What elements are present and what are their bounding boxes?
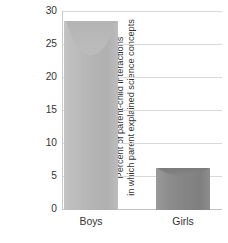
y-tick-label-15: 15 [46, 105, 57, 115]
x-axis-label-girls: Girls [172, 216, 193, 227]
y-axis-title: Percent of parent-child interactions in … [0, 0, 30, 215]
y-tick-label-5: 5 [51, 171, 57, 181]
y-tick-label-30: 30 [46, 6, 57, 16]
y-tick-label-0: 0 [51, 204, 57, 214]
y-tick-label-25: 25 [46, 39, 57, 49]
y-tick-label-10: 10 [46, 138, 57, 148]
gridline-30 [62, 11, 222, 12]
plot-area [62, 0, 222, 212]
x-axis-category-labels: Boys Girls [62, 216, 222, 236]
y-axis-tick-labels: 30 25 20 15 10 5 0 [30, 0, 60, 243]
y-tick-label-20: 20 [46, 72, 57, 82]
bar-chart: Percent of parent-child interactions in … [0, 0, 228, 243]
x-axis-label-boys: Boys [79, 216, 102, 227]
bar-girls[interactable] [156, 168, 210, 210]
y-axis-line [62, 11, 63, 210]
bar-boys[interactable] [64, 21, 118, 210]
